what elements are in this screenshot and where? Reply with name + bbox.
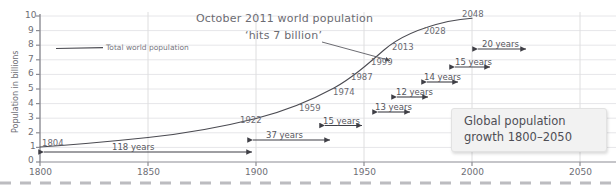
y-tick-0: 0 [28,156,34,165]
legend-line [56,48,103,49]
x-tick-1950: 1950 [353,168,376,177]
y-tick-4: 4 [28,99,34,108]
y-tick-9: 9 [28,26,34,35]
y-tick-1: 1 [30,142,36,151]
population-growth-chart: Population in billions 10 9 8 7 6 5 4 3 … [0,0,616,190]
milestone-2048: 2048 [462,10,484,19]
interval-label-20-years: 20 years [482,40,519,49]
milestone-1999: 1999 [371,58,393,67]
milestone-1987: 1987 [351,73,373,82]
x-tick-2050: 2050 [569,168,592,177]
y-tick-10: 10 [25,11,36,20]
callout-line-1: October 2011 world population [196,13,373,24]
y-tick-5: 5 [28,84,34,93]
y-axis [36,14,40,162]
y-tick-2: 2 [28,128,34,137]
interval-label-12-years: 12 years [396,88,433,97]
milestone-1922: 1922 [240,116,262,125]
y-axis-label: Population in billions [11,50,20,133]
y-tick-7: 7 [28,55,34,64]
legend-label: Total world population [106,44,189,52]
interval-label-37-years: 37 years [266,131,303,140]
x-tick-1850: 1850 [137,168,160,177]
y-tick-8: 8 [28,40,34,49]
x-tick-1900: 1900 [245,168,268,177]
interval-label-15-years-b: 15 years [455,58,492,67]
title-card: Global population growth 1800–2050 [451,108,607,152]
milestone-2013: 2013 [392,43,414,52]
milestone-1959: 1959 [299,104,321,113]
x-tick-2000: 2000 [461,168,484,177]
milestone-2028: 2028 [424,27,446,36]
title-card-line-1: Global population [464,114,606,130]
milestone-1974: 1974 [333,88,355,97]
interval-label-118-years: 118 years [112,143,154,152]
milestone-1804: 1804 [42,139,64,148]
callout-line-2: ‘hits 7 billion’ [245,30,322,41]
y-tick-6: 6 [28,69,34,78]
interval-label-13-years: 13 years [375,103,412,112]
y-tick-3: 3 [28,113,34,122]
interval-label-15-years-a: 15 years [323,117,360,126]
x-tick-1800: 1800 [29,168,52,177]
interval-label-14-years: 14 years [424,73,461,82]
x-axis [39,162,616,166]
title-card-line-2: growth 1800–2050 [464,130,606,146]
